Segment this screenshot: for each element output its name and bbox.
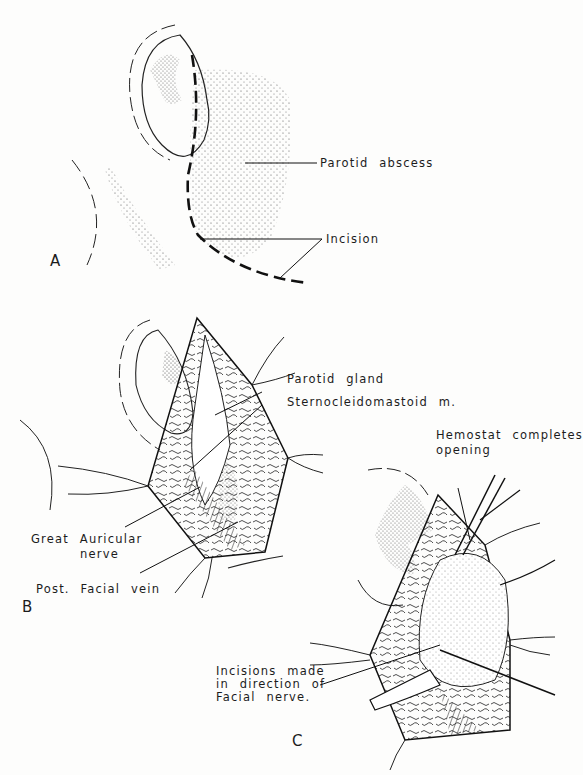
label-incisions-3: Facial nerve.	[216, 690, 310, 705]
label-incision: Incision	[326, 232, 379, 247]
label-great-auricular-nerve-1: Great Auricular	[31, 532, 142, 547]
panel-letter-a: A	[50, 252, 60, 270]
panel-c-drawing	[310, 468, 555, 770]
label-hemostat-1: Hemostat completes	[436, 428, 583, 443]
panel-a-drawing	[72, 25, 322, 283]
panel-letter-c: C	[292, 732, 302, 750]
label-great-auricular-nerve-2: nerve	[80, 547, 119, 562]
panel-b-drawing	[20, 318, 323, 598]
line-art	[0, 0, 583, 775]
artist-signature	[228, 556, 283, 568]
label-parotid-gland: Parotid gland	[287, 372, 384, 387]
label-hemostat-2: opening	[436, 443, 491, 458]
panel-letter-b: B	[22, 598, 32, 616]
label-sternocleidomastoid: Sternocleidomastoid m.	[287, 395, 456, 410]
medical-illustration: Parotid abscess Incision A Parotid gland…	[0, 0, 583, 775]
label-post-facial-vein: Post. Facial vein	[36, 582, 160, 597]
label-parotid-abscess: Parotid abscess	[320, 156, 433, 171]
